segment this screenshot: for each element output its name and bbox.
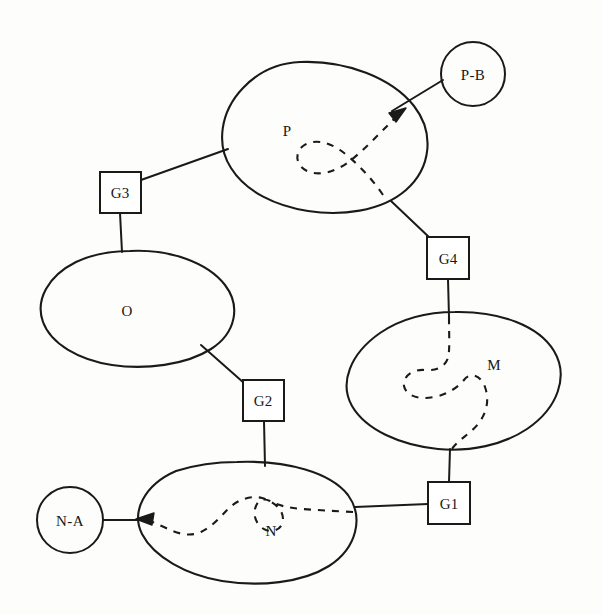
flow-path-p [297, 117, 396, 195]
gate-label-g4: G4 [439, 251, 458, 267]
region-p-outline [222, 62, 427, 213]
edge-m-to-g1 [449, 449, 450, 482]
edge-p-to-pb [392, 80, 443, 111]
connection-edges [103, 80, 450, 520]
region-label-m: M [487, 357, 500, 373]
gate-label-g2: G2 [254, 393, 272, 409]
edge-g1-to-n [355, 504, 428, 507]
region-label-p: P [283, 123, 291, 139]
edge-p-to-g4 [391, 201, 431, 239]
region-m-outline [347, 312, 561, 450]
gate-label-g1: G1 [440, 496, 458, 512]
diagram-svg: P P-B G3 O G2 G4 M G1 N N-A [0, 0, 602, 615]
flow-path-n [148, 497, 353, 534]
edge-g3-to-o [120, 213, 122, 252]
region-n-outline [138, 462, 356, 584]
flow-arrow-p [389, 108, 406, 122]
diagram-canvas: P P-B G3 O G2 G4 M G1 N N-A [0, 0, 602, 615]
gate-label-g3: G3 [111, 185, 129, 201]
edge-g2-to-n [264, 421, 265, 466]
terminal-label-na: N-A [56, 513, 84, 529]
edge-g3-to-p [141, 149, 228, 180]
region-label-n: N [266, 523, 277, 539]
flow-path-m [404, 317, 487, 449]
terminal-label-pb: P-B [461, 67, 486, 83]
region-label-o: O [122, 303, 133, 319]
